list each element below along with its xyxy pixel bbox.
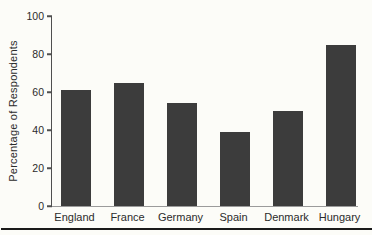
- y-tick-label: 0: [38, 201, 44, 212]
- bar-hungary: [326, 45, 356, 207]
- x-axis-labels: EnglandFranceGermanySpainDenmarkHungary: [51, 211, 358, 225]
- bar-france: [114, 83, 144, 207]
- y-tick-label: 100: [26, 11, 44, 22]
- x-label-spain: Spain: [219, 211, 247, 223]
- bar-england: [61, 90, 91, 206]
- plot-area: 020406080100: [51, 16, 358, 207]
- y-tick-label: 60: [32, 87, 44, 98]
- bar-denmark: [273, 111, 303, 206]
- x-label-germany: Germany: [158, 211, 203, 223]
- x-label-hungary: Hungary: [319, 211, 361, 223]
- x-label-france: France: [110, 211, 144, 223]
- y-axis-title: Percentage of Respondents: [7, 40, 19, 181]
- y-tick-label: 80: [32, 49, 44, 60]
- y-tick-label: 40: [32, 125, 44, 136]
- y-tick-label: 20: [32, 163, 44, 174]
- bar-spain: [220, 132, 250, 206]
- bars-group: [52, 16, 358, 206]
- x-label-denmark: Denmark: [264, 211, 309, 223]
- page-divider-rule: [1, 228, 372, 230]
- bar-germany: [167, 103, 197, 206]
- x-label-england: England: [54, 211, 94, 223]
- figure-page: Percentage of Respondents 020406080100 E…: [0, 0, 372, 235]
